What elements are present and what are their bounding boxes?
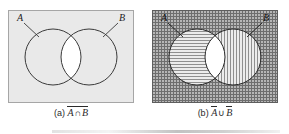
venn-panel-a: A B: [8, 10, 134, 103]
caption-a-prefix: (a): [54, 108, 65, 118]
caption-b-prefix: (b): [198, 108, 209, 118]
caption-b-right-operand: B: [226, 106, 232, 118]
caption-a-expression: A∩B: [67, 106, 88, 119]
set-label-b-panel-b: B: [263, 12, 269, 23]
venn-figure: A B: [0, 0, 289, 134]
set-label-a: A: [16, 12, 24, 23]
venn-diagram-a: A B: [8, 10, 134, 103]
page-edge-artifact: [52, 130, 280, 133]
caption-a-left-operand: A: [67, 107, 73, 118]
set-label-b: B: [119, 12, 125, 23]
caption-b-operator: ∪: [217, 108, 226, 118]
caption-panel-a: (a) A∩B: [8, 106, 134, 119]
caption-b-expression: A∪B: [211, 107, 232, 118]
caption-panel-b: (b) A∪B: [152, 106, 278, 119]
venn-panel-b: A B: [152, 10, 278, 103]
caption-a-right-operand: B: [82, 107, 88, 118]
set-label-a-panel-b: A: [160, 12, 168, 23]
venn-diagram-b: A B: [152, 10, 278, 103]
caption-a-operator: ∩: [74, 108, 82, 118]
